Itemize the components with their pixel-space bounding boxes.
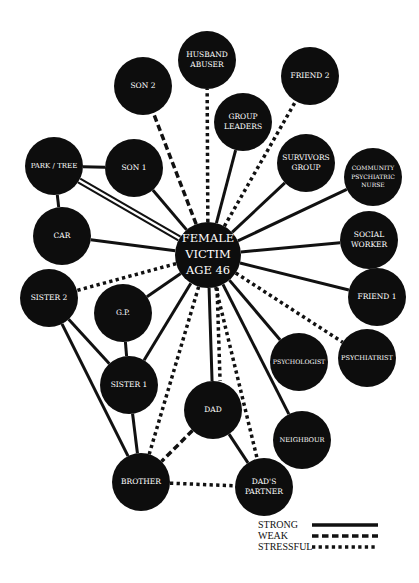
- node-label: SISTER 2: [31, 293, 68, 302]
- node-car: CAR: [33, 207, 91, 265]
- node-layer: FEMALEVICTIMAGE 46HUSBANDABUSERSON 2FRIE…: [20, 31, 406, 516]
- node-label: G.P.: [116, 308, 130, 317]
- node-victim: FEMALEVICTIMAGE 46: [175, 222, 241, 288]
- edge-victim-car-strong: [91, 240, 176, 251]
- node-survivors: SURVIVORSGROUP: [277, 134, 335, 192]
- node-label: PARTNER: [245, 487, 283, 496]
- node-label: ABUSER: [189, 60, 224, 69]
- node-husband: HUSBANDABUSER: [178, 31, 236, 89]
- node-label: LEADERS: [224, 122, 262, 131]
- legend: STRONG WEAK STRESSFUL: [258, 519, 378, 552]
- node-son1: SON 1: [105, 139, 163, 197]
- node-label: FRIEND 1: [357, 292, 396, 301]
- edge-victim-socialworker-strong: [241, 243, 340, 252]
- node-label: NURSE: [361, 181, 384, 188]
- node-label: SON 2: [130, 81, 155, 90]
- node-label: SISTER 1: [111, 380, 148, 389]
- legend-label-strong: STRONG: [258, 519, 298, 530]
- node-label: BROTHER: [121, 477, 161, 486]
- edge-victim-husband-stressful: [207, 89, 208, 222]
- edge-brother-dadspartner-stressful: [170, 483, 235, 486]
- node-gp: G.P.: [94, 284, 152, 342]
- node-dad: DAD: [184, 381, 242, 439]
- node-label: DAD: [204, 405, 221, 414]
- edge-sister1-brother-strong: [133, 414, 138, 453]
- node-label: VICTIM: [184, 247, 231, 261]
- node-label: GROUP: [291, 163, 320, 172]
- node-brother: BROTHER: [112, 453, 170, 511]
- edge-victim-survivors-strong: [232, 183, 285, 233]
- node-psychologist: PSYCHOLOGIST: [270, 333, 328, 391]
- edge-parktree-car-strong: [57, 195, 58, 207]
- node-label: COMMUNITY: [352, 164, 395, 171]
- edge-dad-dadspartner-strong: [229, 434, 248, 463]
- node-label: SURVIVORS: [282, 153, 329, 162]
- node-label: PARK / TREE: [31, 162, 78, 170]
- edge-parktree-son1-strong: [83, 167, 105, 168]
- node-psychiatrist: PSYCHIATRIST: [338, 329, 396, 387]
- node-label: FRIEND 2: [290, 71, 329, 80]
- node-dadspartner: DAD'SPARTNER: [235, 458, 293, 516]
- node-label: FEMALE: [182, 231, 235, 245]
- node-label: HUSBAND: [186, 50, 228, 59]
- legend-label-stressful: STRESSFUL: [258, 541, 312, 552]
- social-network-diagram: FEMALEVICTIMAGE 46HUSBANDABUSERSON 2FRIE…: [0, 0, 419, 583]
- node-socialworker: SOCIALWORKER: [340, 211, 398, 269]
- node-friend2: FRIEND 2: [281, 47, 339, 105]
- node-sister1: SISTER 1: [100, 356, 158, 414]
- node-groupleaders: GROUPLEADERS: [214, 93, 272, 151]
- node-label: CAR: [54, 231, 71, 240]
- edge-victim-friend1-strong: [240, 263, 349, 290]
- node-label: WORKER: [351, 240, 388, 249]
- node-label: GROUP: [228, 112, 257, 121]
- node-friend1: FRIEND 1: [348, 268, 406, 326]
- node-sister2: SISTER 2: [20, 269, 78, 327]
- node-label: PSYCHIATRIC: [351, 173, 395, 180]
- node-cpn: COMMUNITYPSYCHIATRICNURSE: [344, 148, 402, 206]
- node-label: NEIGHBOUR: [279, 436, 325, 444]
- node-label: SOCIAL: [354, 230, 384, 239]
- edge-gp-sister1-strong: [125, 342, 126, 356]
- node-label: PSYCHIATRIST: [341, 354, 393, 362]
- node-label: AGE 46: [185, 263, 230, 277]
- edge-victim-gp-strong: [147, 274, 181, 297]
- legend-label-weak: WEAK: [258, 530, 289, 541]
- node-son2: SON 2: [114, 57, 172, 115]
- node-label: PSYCHOLOGIST: [273, 358, 326, 365]
- node-parktree: PARK / TREE: [25, 137, 83, 195]
- node-label: SON 1: [121, 163, 146, 172]
- node-label: DAD'S: [252, 477, 277, 486]
- edge-dad-brother-weak: [162, 431, 193, 462]
- edge-victim-cpn-strong: [238, 189, 347, 241]
- edge-victim-dad-strong: [209, 288, 212, 381]
- node-neighbour: NEIGHBOUR: [273, 411, 331, 469]
